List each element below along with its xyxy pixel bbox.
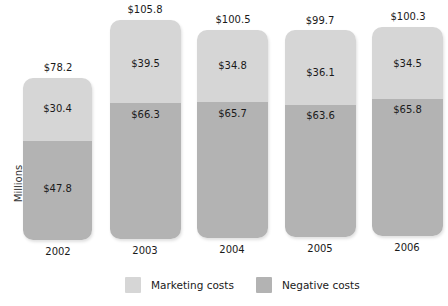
marketing-segment: $36.1 — [285, 30, 356, 105]
negative-segment: $65.7 — [197, 102, 268, 238]
x-tick-label: 2006 — [367, 242, 447, 253]
negative-value: $65.8 — [372, 104, 443, 115]
marketing-segment: $39.5 — [110, 20, 181, 103]
negative-segment: $66.3 — [110, 103, 181, 239]
bar-2003: $39.5 $66.3 — [110, 20, 181, 239]
marketing-value: $39.5 — [110, 58, 181, 69]
legend-label: Negative costs — [282, 279, 360, 291]
negative-segment: $47.8 — [23, 141, 92, 240]
bar-2005: $36.1 $63.6 — [285, 30, 356, 237]
bar-2002: $30.4 $47.8 — [23, 78, 92, 240]
bar-total-label: $78.2 — [18, 62, 98, 73]
negative-segment: $63.6 — [285, 105, 356, 237]
x-tick-label: 2004 — [192, 244, 272, 255]
x-tick-label: 2005 — [280, 243, 360, 254]
negative-value: $47.8 — [23, 183, 92, 194]
legend-item-negative: Negative costs — [256, 277, 360, 293]
x-tick-label: 2002 — [18, 246, 98, 257]
legend-label: Marketing costs — [151, 279, 234, 291]
y-axis-label: Millions — [13, 154, 24, 214]
negative-value: $65.7 — [197, 108, 268, 119]
marketing-value: $34.5 — [372, 58, 443, 69]
marketing-swatch — [125, 277, 141, 293]
marketing-segment: $30.4 — [23, 78, 92, 141]
marketing-value: $36.1 — [285, 67, 356, 78]
bar-total-label: $99.7 — [280, 15, 360, 26]
negative-value: $63.6 — [285, 110, 356, 121]
bar-2006: $34.5 $65.8 — [372, 27, 443, 236]
marketing-segment: $34.5 — [372, 27, 443, 99]
bar-total-label: $100.3 — [368, 11, 448, 22]
marketing-value: $34.8 — [197, 60, 268, 71]
negative-segment: $65.8 — [372, 99, 443, 236]
bar-total-label: $100.5 — [193, 14, 273, 25]
chart-legend: Marketing costs Negative costs — [125, 277, 382, 293]
x-tick-label: 2003 — [105, 245, 185, 256]
marketing-segment: $34.8 — [197, 30, 268, 102]
bar-2004: $34.8 $65.7 — [197, 30, 268, 238]
marketing-value: $30.4 — [23, 103, 92, 114]
bar-total-label: $105.8 — [105, 4, 185, 15]
legend-item-marketing: Marketing costs — [125, 277, 234, 293]
negative-value: $66.3 — [110, 109, 181, 120]
negative-swatch — [256, 277, 272, 293]
